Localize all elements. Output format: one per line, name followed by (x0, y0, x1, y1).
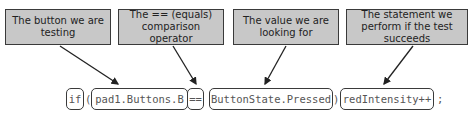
code-value: ButtonState.Pressed (209, 88, 333, 110)
code-semicolon: ; (437, 88, 443, 110)
arrow-operator (173, 46, 196, 84)
code-close-paren: ) (333, 88, 339, 110)
arrow-statement (384, 46, 413, 84)
callout-statement: The statement we perform if the test suc… (346, 9, 468, 45)
code-if-keyword: if (66, 88, 84, 110)
arrow-value (265, 46, 286, 84)
callout-operator: The == (equals) comparison operator (118, 9, 224, 45)
callout-button: The button we are testing (5, 9, 111, 45)
code-statement: redIntensity++ (340, 88, 434, 110)
callout-value: The value we are looking for (233, 9, 339, 45)
arrow-button (60, 46, 118, 84)
code-operator: == (187, 88, 204, 110)
diagram: The button we are testing The == (equals… (0, 0, 470, 118)
code-button: pad1.Buttons.B (91, 88, 188, 110)
